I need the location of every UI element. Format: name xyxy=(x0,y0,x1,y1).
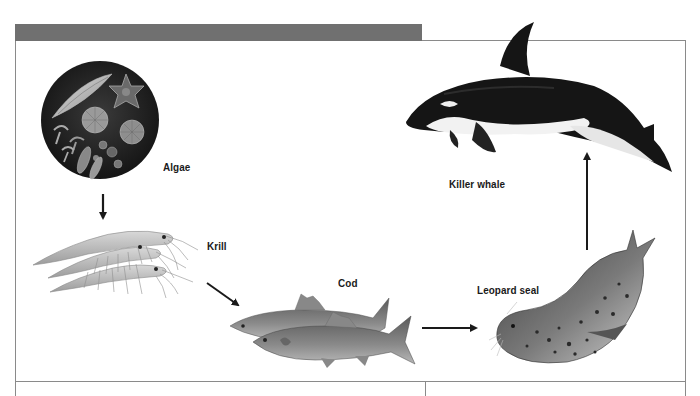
label-leopard-seal: Leopard seal xyxy=(477,284,539,296)
arrow-krill-to-cod xyxy=(207,283,238,305)
label-cod: Cod xyxy=(338,277,358,289)
label-algae: Algae xyxy=(163,161,190,173)
label-krill: Krill xyxy=(207,240,227,252)
label-killer-whale: Killer whale xyxy=(449,178,505,190)
arrows-layer xyxy=(0,0,700,396)
